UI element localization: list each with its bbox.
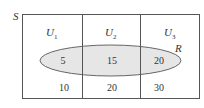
value-u2-in-r: 15: [107, 55, 117, 66]
value-u2-not-r: 20: [107, 82, 117, 93]
value-u3-in-r: 20: [154, 55, 164, 66]
value-u1-not-r: 10: [59, 82, 69, 93]
value-u1-in-r: 5: [61, 55, 66, 66]
set-r-label: R: [174, 42, 182, 54]
universe-label: S: [13, 10, 19, 22]
value-u3-not-r: 30: [154, 82, 164, 93]
venn-diagram: S R U1 U2 U3 5 15 20 10 20 30: [0, 0, 204, 108]
